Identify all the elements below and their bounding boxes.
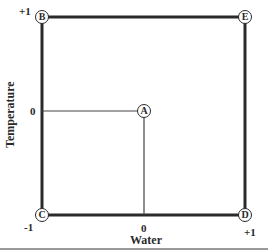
node-e: E <box>238 10 252 24</box>
diagram: B E C D A +1 0 -1 0 +1 Water Temperature <box>0 0 268 251</box>
x-tick-min: -1 <box>24 222 33 233</box>
node-a: A <box>137 104 151 118</box>
node-c: C <box>35 208 49 222</box>
x-tick-max: +1 <box>244 227 256 238</box>
y-axis-label: Temperature <box>3 81 18 148</box>
bottom-divider <box>0 248 268 250</box>
node-d: D <box>238 208 252 222</box>
node-b: B <box>35 10 49 24</box>
y-tick-max: +1 <box>19 6 31 17</box>
y-tick-mid: 0 <box>30 106 36 117</box>
x-axis-label: Water <box>130 235 162 246</box>
